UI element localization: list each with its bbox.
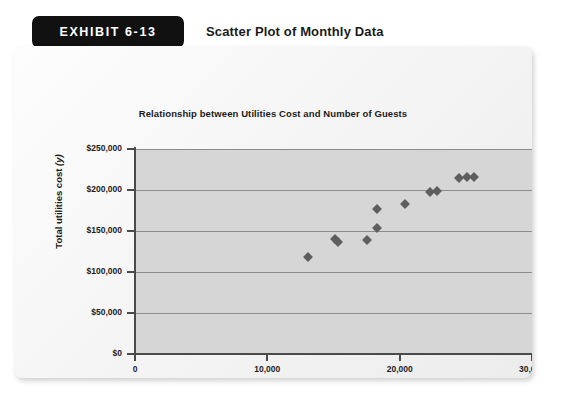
chart-panel: Relationship between Utilities Cost and …: [14, 46, 532, 378]
scatter-point: [372, 204, 382, 214]
y-tick-mark: [127, 189, 134, 191]
scatter-point: [362, 235, 372, 245]
exhibit-number-badge: EXHIBIT 6-13: [32, 16, 184, 48]
y-tick-label: $50,000: [62, 307, 122, 317]
gridline: [135, 190, 532, 191]
x-tick-mark: [134, 354, 136, 361]
gridline: [135, 231, 532, 232]
x-tick-mark: [399, 354, 401, 361]
y-tick-mark: [127, 271, 134, 273]
y-tick-label: $200,000: [62, 184, 122, 194]
plot-area: [135, 149, 532, 354]
gridline: [135, 272, 532, 273]
y-tick-label: $150,000: [62, 225, 122, 235]
exhibit-title: Scatter Plot of Monthly Data: [206, 24, 384, 39]
x-tick-label: 0: [105, 364, 165, 374]
x-tick-label: 10,000: [237, 364, 297, 374]
y-tick-label: $100,000: [62, 266, 122, 276]
x-tick-label: 20,000: [370, 364, 430, 374]
chart-title: Relationship between Utilities Cost and …: [14, 108, 532, 119]
y-tick-mark: [127, 312, 134, 314]
y-tick-mark: [127, 148, 134, 150]
exhibit-figure: EXHIBIT 6-13 Scatter Plot of Monthly Dat…: [0, 0, 564, 408]
gridline: [135, 313, 532, 314]
x-tick-mark: [266, 354, 268, 361]
y-tick-label: $0: [62, 348, 122, 358]
y-tick-label: $250,000: [62, 143, 122, 153]
y-axis-title: Total utilities cost (y): [53, 122, 64, 282]
y-axis-title-text: Total utilities cost: [53, 169, 64, 249]
x-tick-mark: [531, 354, 532, 361]
y-axis-variable: (y): [53, 154, 64, 166]
scatter-point: [432, 186, 442, 196]
y-tick-mark: [127, 230, 134, 232]
x-axis-line: [134, 353, 532, 355]
y-axis-line: [134, 147, 136, 356]
x-tick-label: 30,000: [502, 364, 532, 374]
scatter-point: [469, 172, 479, 182]
y-tick-mark: [127, 353, 134, 355]
gridline: [135, 149, 532, 150]
scatter-point: [303, 252, 313, 262]
scatter-point: [400, 199, 410, 209]
